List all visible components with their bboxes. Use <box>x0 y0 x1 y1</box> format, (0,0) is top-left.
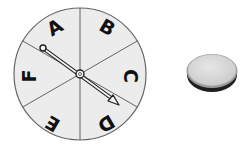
spinner: A B C D E F <box>14 8 146 140</box>
coin-face <box>188 55 236 86</box>
pointer-tail-knob <box>40 45 46 51</box>
diagram-canvas: A B C D E F <box>0 0 248 144</box>
section-label-c: C <box>120 69 142 83</box>
coin <box>187 54 238 92</box>
section-label-f: F <box>18 70 40 83</box>
spinner-hub <box>76 70 84 78</box>
